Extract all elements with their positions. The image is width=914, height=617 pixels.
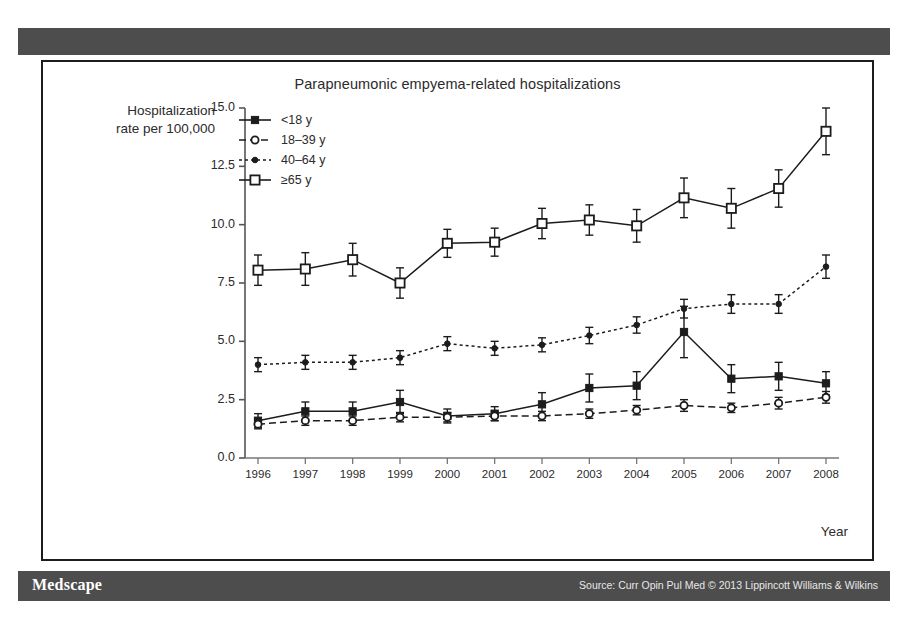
x-tick-label: 1999 [377,468,423,480]
x-tick-label: 2002 [519,468,565,480]
legend-marker-icon [238,132,272,148]
figure-frame: Parapneumonic empyema-related hospitaliz… [41,60,874,561]
y-tick-label: 12.5 [189,158,235,172]
x-tick-label: 2005 [661,468,707,480]
legend-label: 40–64 y [281,153,325,167]
source-attribution: Source: Curr Opin Pul Med © 2013 Lippinc… [579,579,878,591]
x-tick-label: 1996 [235,468,281,480]
legend-item-2[interactable]: 40–64 y [238,150,325,170]
y-tick-label: 5.0 [189,333,235,347]
series-2 [254,255,830,372]
legend-item-0[interactable]: <18 y [238,110,325,130]
x-axis-label: Year [821,524,848,539]
chart-title: Parapneumonic empyema-related hospitaliz… [43,76,872,92]
x-tick-label: 2007 [756,468,802,480]
y-tick-label: 7.5 [189,275,235,289]
x-tick-label: 1998 [330,468,376,480]
y-tick-label: 15.0 [189,100,235,114]
x-tick-label: 2006 [708,468,754,480]
y-tick-label: 2.5 [189,392,235,406]
footer-bar: Medscape Source: Curr Opin Pul Med © 201… [18,571,890,601]
legend-marker-icon [238,152,272,168]
series-0 [254,306,830,427]
series-3 [253,108,830,298]
y-tick-label: 0.0 [189,450,235,464]
legend-item-1[interactable]: 18–39 y [238,130,325,150]
chart-legend: <18 y18–39 y40–64 y≥65 y [238,110,325,190]
legend-marker-icon [238,112,272,128]
x-tick-label: 2008 [803,468,849,480]
x-tick-label: 2001 [472,468,518,480]
x-tick-label: 2000 [424,468,470,480]
legend-label: ≥65 y [281,173,312,187]
x-tick-label: 1997 [282,468,328,480]
y-tick-label: 10.0 [189,217,235,231]
screenshot-root: Parapneumonic empyema-related hospitaliz… [0,0,914,617]
legend-label: 18–39 y [281,133,325,147]
legend-label: <18 y [281,113,312,127]
medscape-logo: Medscape [32,576,102,594]
legend-item-3[interactable]: ≥65 y [238,170,325,190]
legend-marker-icon [238,172,272,188]
x-tick-label: 2003 [566,468,612,480]
x-tick-label: 2004 [614,468,660,480]
header-bar [18,28,890,55]
